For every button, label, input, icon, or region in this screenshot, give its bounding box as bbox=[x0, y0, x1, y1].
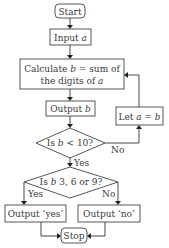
stop-terminal: Stop bbox=[61, 228, 87, 243]
svg-text:Calculate b = sum of: Calculate b = sum of bbox=[24, 64, 120, 74]
output-no-box: Output ‘no’ bbox=[78, 205, 140, 222]
let-a-equals-b-box: Let a = b bbox=[116, 107, 163, 125]
calc-var-a: a bbox=[98, 76, 103, 86]
calc-line2: the digits of bbox=[41, 76, 99, 86]
calculate-box: Calculate b = sum of the digits of a bbox=[20, 59, 124, 89]
let-equals: = bbox=[142, 112, 155, 122]
svg-text:Input a: Input a bbox=[54, 33, 87, 43]
decision1-yes-label: Yes bbox=[73, 158, 89, 168]
svg-text:Is b 3, 6 or 9?: Is b 3, 6 or 9? bbox=[40, 177, 103, 187]
svg-text:Is b < 10?: Is b < 10? bbox=[47, 138, 94, 148]
output-yes-box: Output ‘yes’ bbox=[5, 205, 66, 222]
decision2-yes-label: Yes bbox=[27, 189, 43, 199]
start-label: Start bbox=[58, 7, 81, 17]
output-yes-label: Output ‘yes’ bbox=[8, 209, 64, 219]
output-b-var: b bbox=[85, 104, 91, 114]
input-label: Input bbox=[54, 33, 81, 43]
let-var-b: b bbox=[155, 112, 161, 122]
calc-line1-suffix: = sum of bbox=[76, 64, 120, 74]
calc-line1: Calculate bbox=[24, 64, 70, 74]
output-no-label: Output ‘no’ bbox=[83, 209, 135, 219]
let-label: Let bbox=[118, 112, 136, 122]
svg-text:the digits of a: the digits of a bbox=[41, 76, 104, 86]
decision1-no-label: No bbox=[111, 145, 124, 155]
decision1-suffix: < 10? bbox=[64, 138, 94, 148]
stop-label: Stop bbox=[64, 231, 85, 241]
start-terminal: Start bbox=[55, 4, 85, 18]
decision1-label: Is bbox=[47, 138, 58, 148]
output-b-label: Output bbox=[50, 104, 85, 114]
decision2-no-label: No bbox=[102, 189, 115, 199]
decision2-label: Is bbox=[40, 177, 51, 187]
input-a-box: Input a bbox=[50, 29, 91, 45]
svg-text:Let a = b: Let a = b bbox=[118, 112, 160, 122]
decision-b-less-10: Is b < 10? bbox=[36, 128, 105, 158]
flowchart: Start Input a Calculate b = sum of the d… bbox=[0, 0, 169, 248]
svg-text:Output b: Output b bbox=[50, 104, 91, 114]
input-var: a bbox=[82, 33, 87, 43]
decision2-suffix: 3, 6 or 9? bbox=[56, 177, 102, 187]
output-b-box: Output b bbox=[46, 101, 95, 116]
